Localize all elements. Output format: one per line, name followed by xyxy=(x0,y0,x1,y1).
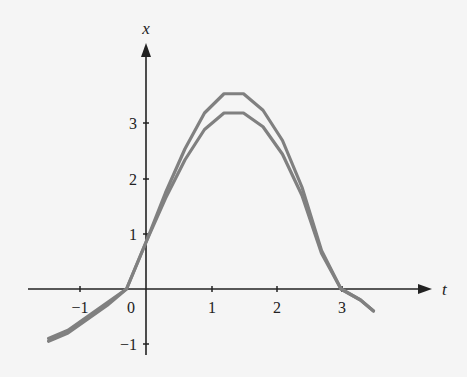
y-tick-label: −1 xyxy=(120,336,137,353)
y-tick-label: 3 xyxy=(129,115,137,132)
x-axis-label: x xyxy=(141,19,150,38)
t-axis-label: t xyxy=(442,280,448,299)
y-tick-label: 1 xyxy=(129,226,137,243)
x-tick-label: −1 xyxy=(71,299,88,316)
chart: −1 0 1 2 3 3 2 1 −1 t x xyxy=(0,0,467,377)
x-tick-label: 0 xyxy=(127,299,135,316)
x-tick-label: 2 xyxy=(273,299,281,316)
x-tick-label: 3 xyxy=(338,299,346,316)
x-tick-label: 1 xyxy=(208,299,216,316)
t-axis-arrow-icon xyxy=(418,284,432,294)
y-tick-label: 2 xyxy=(129,171,137,188)
x-axis-arrow-icon xyxy=(141,43,151,57)
